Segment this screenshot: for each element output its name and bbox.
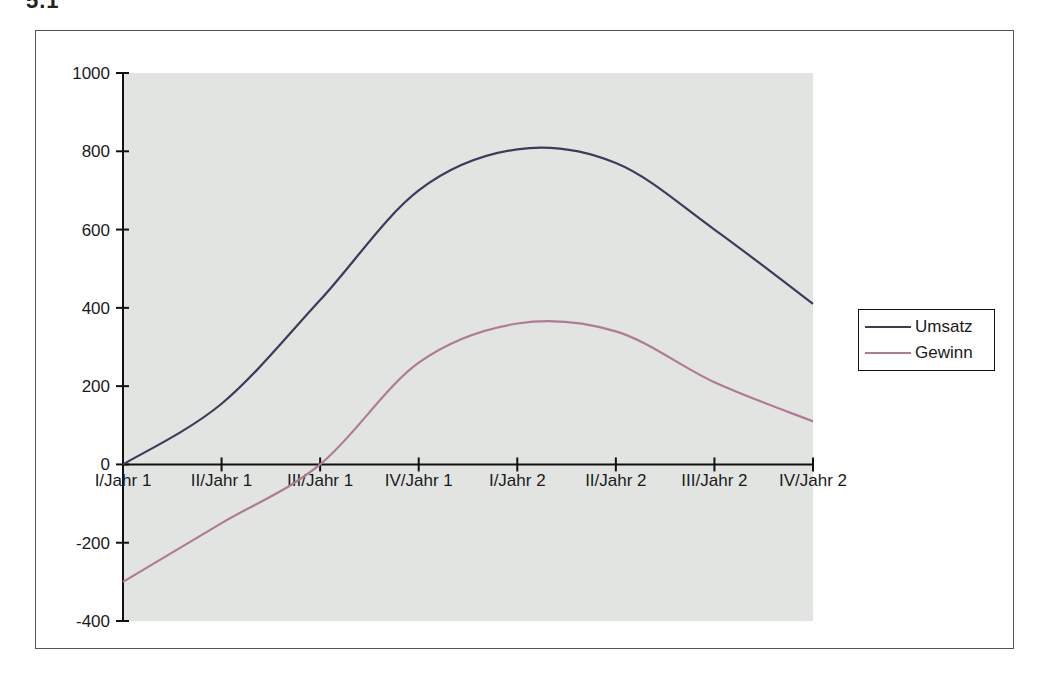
- x-tick-label: I/Jahr 2: [489, 471, 546, 490]
- y-tick-label: 600: [82, 221, 110, 240]
- y-axis: 10008006004002000-200-400: [72, 64, 129, 631]
- chart-legend: Umsatz Gewinn: [858, 309, 995, 371]
- y-tick-label: 1000: [72, 64, 110, 83]
- x-tick-label: III/Jahr 2: [681, 471, 747, 490]
- legend-item-gewinn: Gewinn: [865, 340, 988, 366]
- legend-label: Umsatz: [915, 317, 973, 337]
- y-tick-label: -400: [76, 612, 110, 631]
- legend-label: Gewinn: [915, 343, 973, 363]
- y-tick-label: 800: [82, 142, 110, 161]
- legend-item-umsatz: Umsatz: [865, 314, 988, 340]
- x-tick-label: IV/Jahr 1: [385, 471, 453, 490]
- plot-area: [123, 73, 813, 621]
- y-tick-label: -200: [76, 534, 110, 553]
- legend-swatch-umsatz: [865, 326, 911, 328]
- x-tick-label: II/Jahr 2: [585, 471, 646, 490]
- y-tick-label: 400: [82, 299, 110, 318]
- x-tick-label: IV/Jahr 2: [779, 471, 847, 490]
- y-tick-label: 200: [82, 377, 110, 396]
- legend-swatch-gewinn: [865, 352, 911, 354]
- x-tick-label: I/Jahr 1: [95, 471, 152, 490]
- x-tick-label: II/Jahr 1: [191, 471, 252, 490]
